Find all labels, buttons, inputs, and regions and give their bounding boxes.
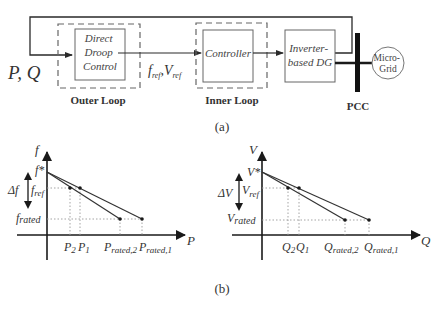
v-ref-label: Vref <box>242 183 261 199</box>
f-ref-label: fref <box>31 183 46 198</box>
droop-line-1 <box>262 172 369 220</box>
delta-f-label: Δf <box>7 183 20 197</box>
delta-v-label: ΔV <box>217 186 234 200</box>
droop-line-1 <box>47 172 142 219</box>
outer-loop-label: Outer Loop <box>70 94 125 106</box>
droop-block-text: Direct Droop Control <box>83 32 117 72</box>
caption-b: (b) <box>214 281 229 296</box>
micro-grid-circle <box>372 47 404 79</box>
input-pq-label: P, Q <box>7 62 41 83</box>
p-axis-label: P <box>186 233 195 248</box>
tick-q-rated-2: Qrated,2 <box>324 240 359 255</box>
tick-q1: Q1 <box>296 240 309 255</box>
caption-a: (a) <box>215 119 229 134</box>
f-p-droop-plot: f P f* Δf fref frated P2 P1 Prated,2 Pra… <box>7 142 195 260</box>
v-rated-label: Vrated <box>227 211 256 226</box>
tick-q2: Q2 <box>282 240 296 255</box>
tick-q-rated-1: Qrated,1 <box>364 240 398 255</box>
droop-line-2 <box>47 172 120 219</box>
tick-p-rated-2: Prated,2 <box>103 240 138 255</box>
p-tick-labels: P2 P1 Prated,2 Prated,1 <box>63 240 172 255</box>
controller-block-text: Controller <box>205 47 252 59</box>
tick-p2: P2 <box>63 240 76 255</box>
block-diagram-a: Direct Droop Control Controller Inverter… <box>7 17 404 134</box>
v-star-label: V* <box>247 165 260 179</box>
v-q-droop-plot: V Q V* ΔV Vref Vrated Q2 Q1 Qrated,2 Qra… <box>217 142 431 260</box>
tick-p-rated-1: Prated,1 <box>138 240 172 255</box>
f-axis-label: f <box>35 142 41 157</box>
tick-p1: P1 <box>77 240 90 255</box>
v-q-guides <box>262 188 369 235</box>
q-axis-label: Q <box>421 233 431 248</box>
pcc-bus-bar <box>355 33 360 92</box>
f-p-points <box>68 186 144 221</box>
droop-control-figure: Direct Droop Control Controller Inverter… <box>0 0 445 309</box>
v-axis-label: V <box>249 142 259 157</box>
f-star-label: f* <box>35 163 44 177</box>
q-tick-labels: Q2 Q1 Qrated,2 Qrated,1 <box>282 240 398 255</box>
inner-loop-label: Inner Loop <box>205 94 258 106</box>
pcc-label: PCC <box>347 100 370 112</box>
reference-signal-label: fref,Vref <box>148 63 183 80</box>
droop-line-2 <box>262 172 345 220</box>
f-rated-label: frated <box>16 211 41 225</box>
